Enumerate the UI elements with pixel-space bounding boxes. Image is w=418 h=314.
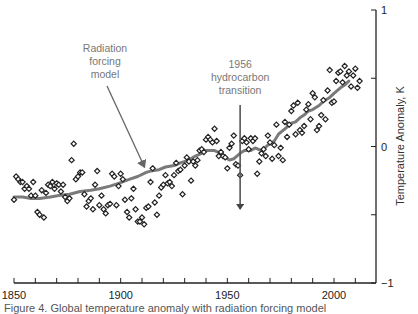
annotation-hydrocarbon-transition: 1956hydrocarbontransition [211, 58, 270, 96]
data-point [284, 134, 289, 139]
annotation-line: hydrocarbon [211, 71, 270, 83]
data-point [99, 193, 104, 198]
data-point [342, 63, 347, 68]
data-point [276, 153, 281, 158]
data-point [351, 73, 356, 78]
annotation-line: Radiation [83, 42, 128, 54]
data-point [293, 132, 298, 137]
data-point [92, 182, 97, 187]
data-point [152, 200, 157, 205]
model-line [14, 81, 349, 198]
arrow-radiation-forcing-model [107, 86, 144, 166]
y-tick-label: −1 [381, 277, 394, 289]
data-point [133, 207, 138, 212]
data-point [84, 204, 89, 209]
x-tick-label: 1950 [215, 289, 239, 301]
x-tick-label: 2000 [322, 289, 346, 301]
data-point [122, 197, 127, 202]
annotation-line: forcing [89, 55, 121, 67]
data-point [188, 178, 193, 183]
data-point [97, 203, 102, 208]
data-point [90, 207, 95, 212]
y-axis: −101 [371, 4, 394, 289]
data-point [334, 78, 339, 83]
annotations: Radiationforcingmodel1956hydrocarbontran… [83, 42, 270, 209]
data-point [325, 88, 330, 93]
data-point [255, 171, 260, 176]
data-point [156, 193, 161, 198]
data-point [348, 84, 353, 89]
y-axis-label: Temperature Anomaly, K [394, 86, 406, 206]
data-point [171, 173, 176, 178]
data-point [129, 196, 134, 201]
data-point [319, 113, 324, 118]
annotation-line: 1956 [228, 58, 252, 70]
data-point [265, 133, 270, 138]
annotation-radiation-forcing-model: Radiationforcingmodel [83, 42, 128, 80]
data-point [270, 156, 275, 161]
x-axis: 1850190019502000 [2, 278, 376, 301]
data-point [154, 212, 159, 217]
data-point [118, 171, 123, 176]
data-point [124, 209, 129, 214]
data-point [308, 117, 313, 122]
data-point [163, 173, 168, 178]
data-point [58, 189, 63, 194]
y-tick-label: 0 [381, 141, 387, 153]
data-point [71, 141, 76, 146]
x-tick-label: 1900 [108, 289, 132, 301]
model-line-group [14, 81, 349, 198]
data-point [306, 102, 311, 107]
data-point [323, 117, 328, 122]
data-point [278, 145, 283, 150]
y-tick-label: 1 [381, 4, 387, 16]
scatter-group [11, 63, 362, 227]
data-point [95, 168, 100, 173]
annotation-line: transition [219, 84, 262, 96]
data-point [357, 78, 362, 83]
data-point [327, 67, 332, 72]
data-point [148, 179, 153, 184]
data-point [69, 158, 74, 163]
data-point [231, 133, 236, 138]
data-point [280, 158, 285, 163]
figure-caption: Figure 4. Global temperature anomaly wit… [4, 302, 326, 314]
data-point [182, 163, 187, 168]
annotation-line: model [91, 68, 120, 80]
data-point [212, 126, 217, 131]
data-point [127, 215, 132, 220]
data-point [274, 122, 279, 127]
data-point [353, 66, 358, 71]
data-point [180, 192, 185, 197]
data-point [114, 203, 119, 208]
data-point [225, 166, 230, 171]
data-point [131, 186, 136, 191]
data-point [257, 159, 262, 164]
data-point [289, 108, 294, 113]
x-tick-label: 1850 [2, 289, 26, 301]
data-point [302, 123, 307, 128]
data-point [31, 179, 36, 184]
data-point [355, 85, 360, 90]
data-point [60, 182, 65, 187]
